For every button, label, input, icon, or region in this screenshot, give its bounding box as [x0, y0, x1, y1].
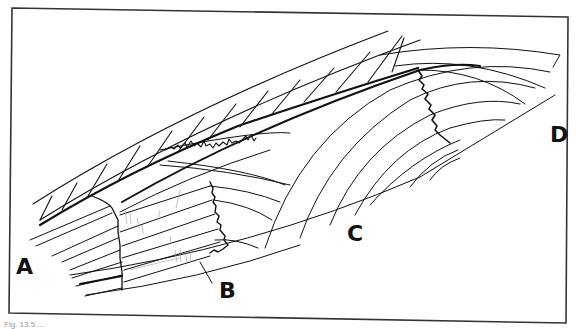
jagged-front-right — [418, 70, 450, 143]
label-c: C — [347, 223, 363, 245]
label-d: D — [550, 124, 568, 146]
lamina-top-thick — [122, 65, 480, 202]
lower-boundary — [70, 95, 555, 275]
figure-frame — [9, 8, 568, 323]
label-b: B — [219, 280, 236, 302]
label-a: A — [16, 256, 33, 278]
figure-caption: Fig. 13.5 ... — [4, 320, 44, 329]
sketch-strokes — [125, 190, 191, 270]
